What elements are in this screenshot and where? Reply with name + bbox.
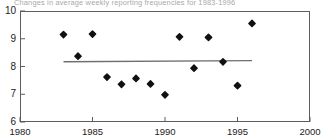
x-tick-label: 1980 [0, 127, 40, 137]
y-tick-label: 10 [0, 6, 16, 16]
data-point-marker [147, 81, 153, 87]
data-point-marker [60, 31, 66, 37]
x-tick-label: 2000 [290, 127, 326, 137]
data-point-marker [75, 53, 81, 59]
data-point-marker [133, 75, 139, 81]
chart-figure: Changes in average weekly reporting freq… [0, 0, 326, 140]
x-tick-label: 1995 [218, 127, 258, 137]
y-tick-label: 7 [0, 89, 16, 99]
data-point-marker [162, 92, 168, 98]
data-point-marker [249, 20, 255, 26]
data-point-marker [89, 31, 95, 37]
x-tick-label: 1985 [73, 127, 113, 137]
data-point-marker [220, 59, 226, 65]
data-point-marker [205, 34, 211, 40]
data-point-marker [176, 34, 182, 40]
data-point-markers [60, 20, 255, 98]
y-axis-ticks [20, 11, 25, 122]
data-point-marker [104, 74, 110, 80]
data-point-marker [191, 65, 197, 71]
x-tick-label: 1990 [145, 127, 185, 137]
data-point-marker [234, 83, 240, 89]
x-axis-ticks [20, 117, 310, 122]
y-tick-label: 8 [0, 62, 16, 72]
plot-area [0, 0, 326, 140]
data-point-marker [118, 81, 124, 87]
y-tick-label: 9 [0, 34, 16, 44]
